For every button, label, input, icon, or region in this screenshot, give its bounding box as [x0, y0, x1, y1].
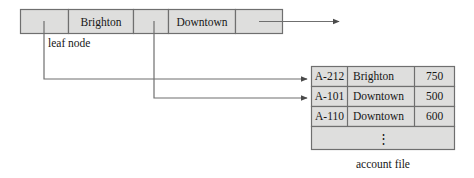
leaf-node[interactable]: Brighton Downtown [21, 10, 283, 34]
table-cell-branch-name: Downtown [353, 110, 404, 122]
account-file-table[interactable]: A-212 Brighton 750 A-101 Downtown 500 A-… [312, 67, 455, 150]
leaf-cell-key-downtown-label: Downtown [176, 16, 227, 28]
bplus-tree-leaf-diagram: Brighton Downtown A-212 [0, 0, 474, 178]
account-file-caption: account file [356, 158, 410, 170]
table-cell-account-number: A-110 [315, 110, 344, 122]
figure-canvas: Brighton Downtown A-212 [0, 0, 474, 178]
table-cell-balance: 750 [426, 70, 444, 82]
table-cell-account-number: A-212 [315, 70, 345, 82]
table-cell-balance: 600 [426, 110, 444, 122]
leaf-cell-pointer-1[interactable] [134, 10, 169, 34]
leaf-cell-key-brighton-label: Brighton [81, 16, 122, 29]
table-cell-account-number: A-101 [315, 90, 345, 102]
table-cell-balance: 500 [426, 90, 444, 102]
table-cell-branch-name: Downtown [353, 90, 404, 102]
table-cell-branch-name: Brighton [353, 70, 394, 83]
table-continuation-ellipsis: ⋮ [377, 131, 390, 146]
leaf-node-label: leaf node [48, 37, 90, 49]
